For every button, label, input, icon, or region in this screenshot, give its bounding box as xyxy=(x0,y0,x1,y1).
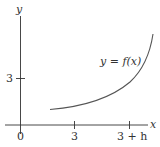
y-tick-label-3: 3 xyxy=(6,72,13,85)
x-tick-label-3-plus-h: 3 + h xyxy=(117,130,147,143)
x-axis-label: x xyxy=(150,118,157,131)
function-graph: y x 0 3 3 + h 3 y = f(x) xyxy=(0,0,160,147)
x-tick-label-3: 3 xyxy=(71,130,78,143)
function-curve xyxy=(50,34,153,110)
y-axis-label: y xyxy=(15,3,23,16)
curve-label: y = f(x) xyxy=(99,55,141,68)
origin-label: 0 xyxy=(17,130,24,143)
